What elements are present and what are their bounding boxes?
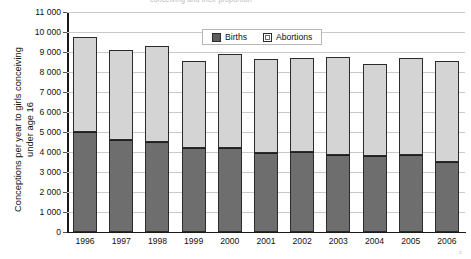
gridline bbox=[67, 12, 465, 13]
y-tick-mark bbox=[63, 32, 67, 33]
x-tick-label: 1997 bbox=[103, 236, 139, 246]
y-tick-mark bbox=[63, 112, 67, 113]
y-tick-label: 6 000 bbox=[0, 107, 61, 117]
bar-segment-abortions[interactable] bbox=[326, 57, 350, 155]
bar-stack[interactable] bbox=[218, 54, 242, 232]
bar-segment-births[interactable] bbox=[182, 148, 206, 232]
y-tick-label: 1 000 bbox=[0, 207, 61, 217]
bar-segment-births[interactable] bbox=[290, 152, 314, 232]
bar-segment-abortions[interactable] bbox=[109, 50, 133, 139]
bar-segment-abortions[interactable] bbox=[254, 59, 278, 153]
y-tick-mark bbox=[63, 92, 67, 93]
bar-segment-births[interactable] bbox=[399, 155, 423, 232]
bar-segment-abortions[interactable] bbox=[435, 61, 459, 162]
cropped-figure-title: conceiving and their proportion bbox=[150, 0, 350, 5]
legend-swatch-abortions-icon bbox=[263, 33, 272, 42]
y-tick-mark bbox=[63, 12, 67, 13]
y-tick-mark bbox=[63, 52, 67, 53]
bar-stack[interactable] bbox=[254, 59, 278, 232]
bar-stack[interactable] bbox=[73, 37, 97, 232]
x-tick-label: 1999 bbox=[176, 236, 212, 246]
bar-segment-births[interactable] bbox=[218, 148, 242, 232]
x-axis-line bbox=[67, 232, 466, 233]
y-tick-mark bbox=[63, 152, 67, 153]
bar-segment-abortions[interactable] bbox=[218, 54, 242, 148]
bar-segment-births[interactable] bbox=[145, 142, 169, 232]
bar-segment-abortions[interactable] bbox=[145, 46, 169, 142]
x-tick-label: 2002 bbox=[284, 236, 320, 246]
x-tick-label: 2006 bbox=[429, 236, 465, 246]
y-tick-mark bbox=[63, 132, 67, 133]
y-tick-label: 7 000 bbox=[0, 87, 61, 97]
plot-area bbox=[67, 12, 465, 232]
x-tick-label: 1996 bbox=[67, 236, 103, 246]
bar-segment-abortions[interactable] bbox=[182, 61, 206, 148]
y-tick-mark bbox=[63, 192, 67, 193]
bar-stack[interactable] bbox=[290, 58, 314, 232]
y-tick-label: 9 000 bbox=[0, 47, 61, 57]
bar-segment-births[interactable] bbox=[109, 140, 133, 232]
y-tick-mark bbox=[63, 212, 67, 213]
y-tick-label: 0 bbox=[0, 227, 61, 237]
legend-entry[interactable]: Births bbox=[212, 32, 247, 42]
x-tick-label: 2003 bbox=[320, 236, 356, 246]
bar-segment-abortions[interactable] bbox=[399, 58, 423, 155]
bar-segment-abortions[interactable] bbox=[290, 58, 314, 153]
bar-stack[interactable] bbox=[399, 58, 423, 232]
y-tick-label: 5 000 bbox=[0, 127, 61, 137]
y-tick-mark bbox=[63, 172, 67, 173]
y-tick-label: 11 000 bbox=[0, 7, 61, 17]
bar-segment-abortions[interactable] bbox=[363, 64, 387, 156]
bar-segment-births[interactable] bbox=[363, 156, 387, 232]
y-tick-label: 8 000 bbox=[0, 67, 61, 77]
x-tick-label: 2004 bbox=[356, 236, 392, 246]
corner-mark: c bbox=[459, 249, 462, 255]
y-tick-label: 4 000 bbox=[0, 147, 61, 157]
y-tick-mark bbox=[63, 72, 67, 73]
bar-segment-abortions[interactable] bbox=[73, 37, 97, 132]
chart-container: conceiving and their proportion Concepti… bbox=[0, 0, 471, 259]
chart-legend: BirthsAbortions bbox=[202, 29, 322, 45]
bar-segment-births[interactable] bbox=[435, 162, 459, 232]
x-tick-label: 2005 bbox=[393, 236, 429, 246]
bar-segment-births[interactable] bbox=[326, 155, 350, 232]
bar-segment-births[interactable] bbox=[73, 132, 97, 232]
bar-stack[interactable] bbox=[109, 50, 133, 232]
y-tick-label: 10 000 bbox=[0, 27, 61, 37]
bar-stack[interactable] bbox=[326, 57, 350, 232]
legend-label: Births bbox=[225, 32, 247, 42]
y-tick-label: 2 000 bbox=[0, 187, 61, 197]
legend-swatch-births-icon bbox=[212, 33, 221, 42]
legend-entry[interactable]: Abortions bbox=[263, 32, 312, 42]
x-tick-label: 2000 bbox=[212, 236, 248, 246]
x-tick-label: 1998 bbox=[139, 236, 175, 246]
bar-stack[interactable] bbox=[363, 64, 387, 232]
bar-stack[interactable] bbox=[145, 46, 169, 232]
x-tick-label: 2001 bbox=[248, 236, 284, 246]
bar-stack[interactable] bbox=[182, 61, 206, 232]
bar-stack[interactable] bbox=[435, 61, 459, 232]
bar-segment-births[interactable] bbox=[254, 153, 278, 232]
y-tick-mark bbox=[63, 232, 67, 233]
legend-label: Abortions bbox=[276, 32, 312, 42]
y-tick-label: 3 000 bbox=[0, 167, 61, 177]
